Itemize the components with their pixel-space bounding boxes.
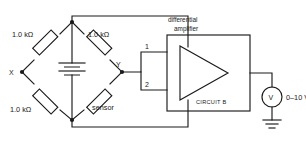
label-sensor: sensor: [92, 103, 114, 112]
label-amplifier-caption-line2: amplifier: [174, 25, 199, 33]
label-resistor-bottom-left: 1.0 kΩ: [10, 105, 32, 114]
node-bottom-junction: [70, 118, 74, 122]
label-node-y: Y: [116, 61, 121, 68]
label-node-x: X: [9, 69, 14, 76]
label-input-1: 1: [145, 43, 149, 50]
circuit-diagram-canvas: 1.0 kΩ 1.0 kΩ 1.0 kΩ sensor X Y differen…: [0, 0, 306, 142]
label-amplifier-caption-line1: differential: [168, 16, 197, 23]
node-x-junction: [20, 70, 24, 74]
label-resistor-top-right: 1.0 kΩ: [88, 30, 110, 39]
battery-source: [59, 22, 85, 120]
label-voltmeter-symbol: V: [269, 94, 274, 101]
output-wiring: [250, 73, 282, 120]
label-input-2: 2: [145, 81, 149, 88]
node-top-junction: [70, 20, 74, 24]
ground-symbol: [263, 120, 281, 128]
label-voltage-range: 0–10 V: [286, 93, 306, 102]
label-circuit-b: CIRCUIT B: [196, 99, 227, 105]
bridge-resistor-sensor: [72, 72, 122, 120]
circuit-schematic: 1.0 kΩ 1.0 kΩ 1.0 kΩ sensor X Y differen…: [0, 0, 306, 142]
label-resistor-top-left: 1.0 kΩ: [12, 30, 34, 39]
